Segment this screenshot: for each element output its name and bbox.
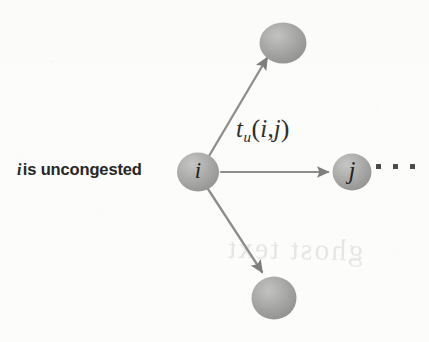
edge-label-open-paren: (	[251, 114, 260, 143]
edge-label-comma: ,	[267, 115, 274, 142]
edge-label-transit-time: tu(i,j)	[236, 114, 289, 146]
edge-label-base: t	[236, 115, 243, 142]
caption-body-text: is uncongested	[23, 160, 142, 178]
node-top[interactable]	[260, 23, 307, 64]
node-bottom[interactable]	[252, 277, 297, 320]
ellipsis-dot-1	[376, 164, 381, 169]
figure-node-link-diagram: ghost text	[0, 0, 429, 342]
edge-label-close-paren: )	[281, 114, 290, 143]
ellipsis-indicator	[376, 164, 415, 169]
node-label-j: j	[340, 157, 364, 185]
caption-i-is-uncongested: iis uncongested	[17, 160, 142, 179]
edge-i-to-bottom	[208, 189, 262, 272]
ellipsis-dot-2	[393, 164, 398, 169]
node-label-i: i	[186, 158, 210, 184]
ellipsis-dot-3	[410, 164, 415, 169]
edge-label-arg2: j	[274, 115, 281, 142]
